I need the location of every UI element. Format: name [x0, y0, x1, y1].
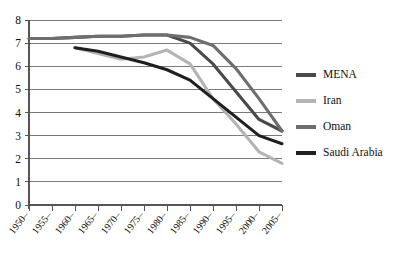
svg-text:4: 4: [15, 107, 21, 119]
legend-swatch-iran: [296, 99, 316, 103]
legend-label-iran: Iran: [323, 95, 342, 107]
svg-text:1960–: 1960–: [53, 209, 78, 236]
grid-lines: [25, 20, 282, 205]
svg-text:1975–: 1975–: [122, 209, 147, 236]
legend-item-iran: Iran: [296, 88, 395, 114]
x-tick-labels: 1950–1955–1960–1965–1970–1975–1980–1985–…: [7, 209, 285, 236]
svg-text:3: 3: [15, 130, 21, 142]
legend-swatch-mena: [296, 73, 316, 77]
svg-text:1970–: 1970–: [99, 209, 124, 236]
svg-text:5: 5: [15, 83, 21, 95]
svg-text:2000–: 2000–: [237, 209, 262, 236]
svg-text:7: 7: [15, 37, 21, 49]
legend-label-mena: MENA: [323, 69, 357, 81]
data-series-group: [29, 35, 282, 163]
svg-text:1: 1: [15, 176, 21, 188]
svg-text:2: 2: [15, 153, 21, 165]
legend-item-saudi-arabia: Saudi Arabia: [296, 140, 395, 166]
legend-item-oman: Oman: [296, 114, 395, 140]
svg-text:8: 8: [15, 14, 21, 26]
legend-label-oman: Oman: [323, 121, 351, 133]
svg-text:1955–: 1955–: [30, 209, 55, 236]
svg-text:1985–: 1985–: [168, 209, 193, 236]
legend-swatch-oman: [296, 125, 316, 129]
legend-item-mena: MENA: [296, 62, 395, 88]
legend-label-saudi-arabia: Saudi Arabia: [323, 147, 383, 159]
svg-text:1990–: 1990–: [191, 209, 216, 236]
svg-text:1965–: 1965–: [76, 209, 101, 236]
fertility-line-chart: 012345678 1950–1955–1960–1965–1970–1975–…: [0, 0, 395, 276]
svg-text:6: 6: [15, 60, 21, 72]
svg-text:0: 0: [15, 199, 21, 211]
svg-text:1995–: 1995–: [214, 209, 239, 236]
svg-text:2005–: 2005–: [260, 209, 285, 236]
chart-legend: MENA Iran Oman Saudi Arabia: [296, 62, 395, 166]
svg-text:1950–: 1950–: [7, 209, 32, 236]
svg-text:1980–: 1980–: [145, 209, 170, 236]
y-tick-labels: 012345678: [15, 14, 21, 211]
legend-swatch-saudi-arabia: [296, 151, 316, 155]
